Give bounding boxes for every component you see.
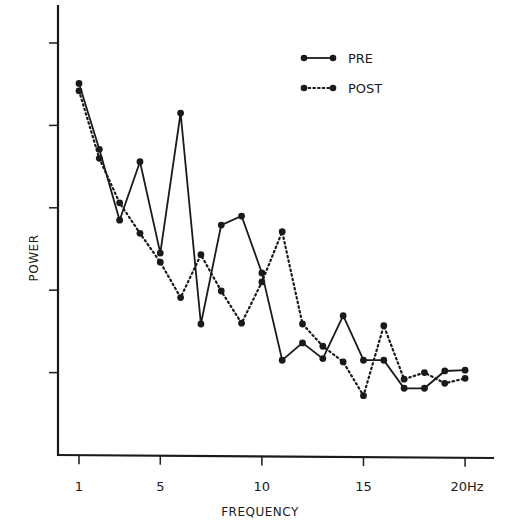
series-pre (76, 80, 469, 392)
post-data-point (462, 375, 469, 382)
pre-data-point (157, 250, 164, 257)
post-data-point (299, 321, 306, 328)
pre-data-point (299, 340, 306, 347)
pre-data-point (462, 367, 469, 374)
pre-data-point (340, 312, 347, 319)
axes (57, 5, 494, 458)
post-line (79, 91, 465, 396)
post-data-point (76, 87, 83, 94)
pre-data-point (319, 355, 326, 362)
pre-data-point (137, 158, 144, 165)
pre-data-point (380, 357, 387, 364)
pre-data-point (360, 357, 367, 364)
x-ticks: 15101520Hz (75, 455, 484, 494)
x-tick-label: 5 (156, 479, 164, 494)
legend: PRE POST (301, 51, 383, 96)
legend-marker-icon (301, 85, 308, 92)
post-data-point (380, 322, 387, 329)
pre-data-point (116, 217, 123, 224)
y-axis-title: POWER (27, 235, 41, 282)
post-data-point (238, 320, 245, 327)
post-data-point (137, 230, 144, 237)
pre-data-point (198, 321, 205, 328)
post-data-point (198, 251, 205, 258)
x-axis-title: FREQUENCY (221, 505, 299, 519)
y-ticks (49, 43, 58, 373)
legend-item-pre: PRE (301, 51, 373, 66)
pre-data-point (421, 385, 428, 392)
x-axis (57, 455, 494, 458)
pre-data-point (177, 110, 184, 117)
post-data-point (258, 279, 265, 286)
post-data-point (319, 343, 326, 350)
legend-item-post: POST (301, 81, 383, 96)
power-frequency-chart: 15101520Hz FREQUENCY POWER PRE POST (0, 0, 530, 525)
post-data-point (360, 392, 367, 399)
legend-label-pre: PRE (348, 51, 373, 66)
post-data-point (177, 294, 184, 301)
post-data-point (421, 369, 428, 376)
pre-data-point (218, 222, 225, 229)
pre-data-point (401, 385, 408, 392)
post-data-point (116, 199, 123, 206)
x-tick-label: 15 (355, 479, 372, 494)
x-tick-label: 1 (75, 479, 83, 494)
pre-data-point (238, 213, 245, 220)
legend-marker-icon (330, 55, 337, 62)
legend-label-post: POST (348, 81, 382, 96)
post-data-point (157, 259, 164, 266)
post-data-point (279, 228, 286, 235)
legend-marker-icon (330, 85, 337, 92)
pre-data-point (441, 368, 448, 375)
pre-data-point (258, 269, 265, 276)
legend-marker-icon (301, 55, 308, 62)
pre-data-point (279, 357, 286, 364)
post-data-point (340, 358, 347, 365)
post-data-point (96, 155, 103, 162)
post-data-point (218, 288, 225, 295)
pre-data-point (76, 80, 83, 87)
post-data-point (401, 376, 408, 383)
series-post (76, 87, 469, 399)
post-data-point (441, 380, 448, 387)
x-tick-label: 10 (254, 479, 271, 494)
pre-line (79, 83, 465, 388)
x-tick-label: 20Hz (451, 479, 484, 494)
